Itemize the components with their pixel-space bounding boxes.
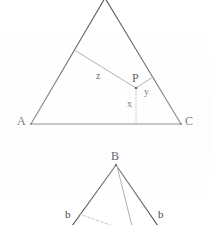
triangle-B-group (72, 164, 158, 225)
lower-right-leg (116, 165, 158, 225)
label-vertex-C: C (185, 115, 193, 127)
triangle-ABC-group (30, 0, 182, 125)
lower-left-dash (79, 214, 113, 225)
label-point-P: P (132, 72, 139, 84)
label-segment-z: z (96, 71, 100, 81)
label-vertex-A: A (17, 115, 26, 127)
label-angle-b-right: b (158, 209, 164, 220)
vertex-C-marker (180, 123, 182, 125)
label-segment-x: x (127, 99, 132, 109)
triangle-side-BC (105, 0, 181, 124)
figure-canvas: A C P z y x B b b (0, 0, 212, 225)
vertex-A-marker (30, 123, 32, 125)
point-P-marker (135, 87, 138, 90)
geometry-diagram-svg (0, 0, 212, 225)
vertex-B-marker (115, 164, 117, 166)
lower-cevian (117, 166, 132, 225)
label-angle-b-left: b (65, 209, 71, 220)
label-vertex-B: B (111, 150, 119, 162)
label-segment-y: y (144, 87, 149, 97)
lower-left-leg (72, 165, 116, 225)
segment-z-line (76, 51, 136, 88)
